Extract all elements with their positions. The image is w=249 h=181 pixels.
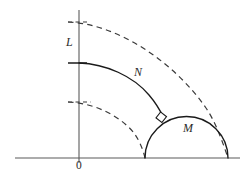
solid-arc-n — [79, 63, 164, 118]
figure-canvas — [0, 0, 249, 181]
semicircle-label-m: M — [183, 122, 193, 134]
right-angle-marker-icon — [156, 112, 167, 123]
origin-label: 0 — [76, 160, 82, 172]
geometric-figure: L N M 0 — [0, 0, 249, 181]
inner-dashed-arc — [68, 102, 145, 158]
outer-dashed-arc — [68, 22, 228, 158]
y-axis-label-l: L — [66, 36, 73, 48]
solid-arc-label-n: N — [134, 66, 142, 78]
